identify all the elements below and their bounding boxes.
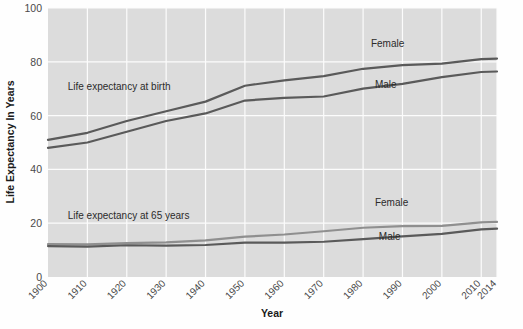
x-tick-label-1930: 1930 xyxy=(144,277,168,301)
x-axis-title: Year xyxy=(261,307,283,319)
x-tick-label-2000: 2000 xyxy=(420,277,444,301)
x-tick-label-1990: 1990 xyxy=(380,277,404,301)
x-tick-label-1970: 1970 xyxy=(302,277,326,301)
life-expectancy-chart: 020406080100 190019101920193019401950196… xyxy=(0,0,523,329)
annotation-at65-male-label: Male xyxy=(379,231,401,242)
x-tick-label-2014: 2014 xyxy=(475,277,499,301)
x-tick-label-1910: 1910 xyxy=(65,277,89,301)
x-tick-label-1950: 1950 xyxy=(223,277,247,301)
y-axis-title: Life Expectancy In Years xyxy=(4,80,16,203)
x-tick-label-1960: 1960 xyxy=(262,277,286,301)
x-tick-label-1900: 1900 xyxy=(26,277,50,301)
annotation-at65-group-label: Life expectancy at 65 years xyxy=(68,210,190,221)
y-axis-tick-labels: 020406080100 xyxy=(24,2,42,283)
annotation-birth-female-label: Female xyxy=(371,38,405,49)
y-tick-label-40: 40 xyxy=(30,163,42,175)
annotation-at65-female-label: Female xyxy=(375,197,409,208)
annotation-birth-group-label: Life expectancy at birth xyxy=(68,81,171,92)
y-tick-label-60: 60 xyxy=(30,110,42,122)
plot-background xyxy=(48,8,497,277)
x-tick-label-1980: 1980 xyxy=(341,277,365,301)
y-tick-label-20: 20 xyxy=(30,217,42,229)
x-tick-label-1920: 1920 xyxy=(105,277,129,301)
y-tick-label-80: 80 xyxy=(30,56,42,68)
chart-canvas: 020406080100 190019101920193019401950196… xyxy=(0,0,523,329)
annotation-birth-male-label: Male xyxy=(375,79,397,90)
x-tick-label-1940: 1940 xyxy=(183,277,207,301)
x-axis-tick-labels: 1900191019201930194019501960197019801990… xyxy=(26,277,499,301)
y-tick-label-100: 100 xyxy=(24,2,42,14)
